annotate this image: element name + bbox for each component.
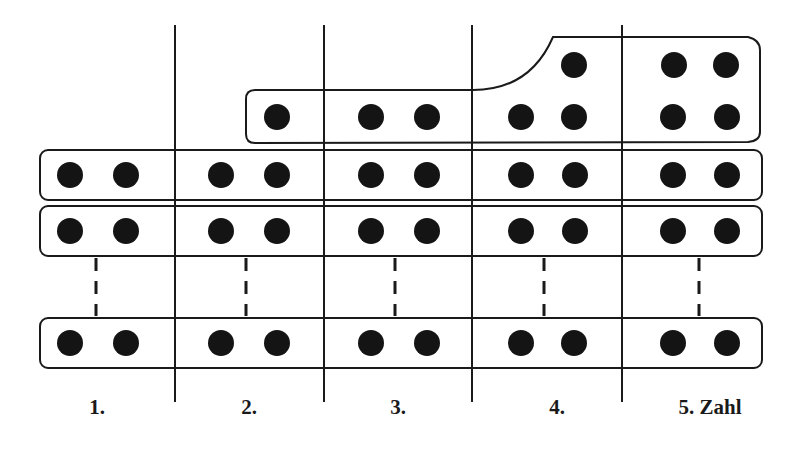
dot bbox=[660, 104, 686, 130]
row-1-dots bbox=[57, 162, 740, 188]
dot bbox=[508, 104, 534, 130]
number-pattern-diagram: 1. 2. 3. 4. 5. Zahl bbox=[0, 0, 800, 449]
dot bbox=[358, 104, 384, 130]
column-label-5: 5. Zahl bbox=[678, 395, 741, 419]
row-box-n bbox=[40, 318, 762, 368]
dots bbox=[57, 52, 740, 356]
dot bbox=[713, 52, 739, 78]
row-box-2 bbox=[40, 206, 762, 256]
column-label-2: 2. bbox=[241, 395, 257, 419]
column-label-1: 1. bbox=[89, 395, 105, 419]
dot bbox=[264, 104, 290, 130]
row-n-dots bbox=[57, 330, 740, 356]
row-2-dots bbox=[57, 218, 740, 244]
dot bbox=[714, 104, 740, 130]
dot bbox=[561, 52, 587, 78]
row-box-1 bbox=[40, 150, 762, 200]
dot bbox=[661, 52, 687, 78]
dot bbox=[414, 104, 440, 130]
column-label-4: 4. bbox=[549, 395, 565, 419]
column-label-3: 3. bbox=[390, 395, 406, 419]
dot bbox=[561, 104, 587, 130]
